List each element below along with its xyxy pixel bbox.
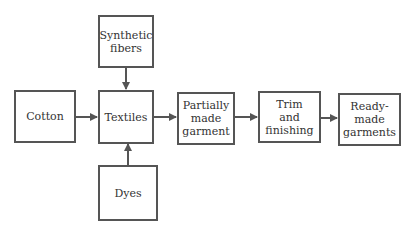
node-dyes: Dyes — [98, 165, 158, 221]
node-textiles: Textiles — [98, 90, 154, 144]
node-partially-made-garment: Partially made garment — [177, 92, 235, 145]
node-label: Synthetic fibers — [100, 29, 153, 55]
node-label: Trim and finishing — [265, 98, 313, 137]
node-label: Cotton — [26, 110, 64, 123]
node-label: Textiles — [105, 111, 148, 124]
node-synthetic-fibers: Synthetic fibers — [98, 15, 154, 68]
node-ready-made-garments: Ready-made garments — [338, 93, 401, 146]
node-label: Partially made garment — [182, 99, 229, 138]
node-label: Ready-made garments — [343, 100, 396, 139]
node-label: Dyes — [114, 187, 141, 200]
node-trim-and-finishing: Trim and finishing — [258, 91, 321, 143]
node-cotton: Cotton — [14, 90, 76, 143]
